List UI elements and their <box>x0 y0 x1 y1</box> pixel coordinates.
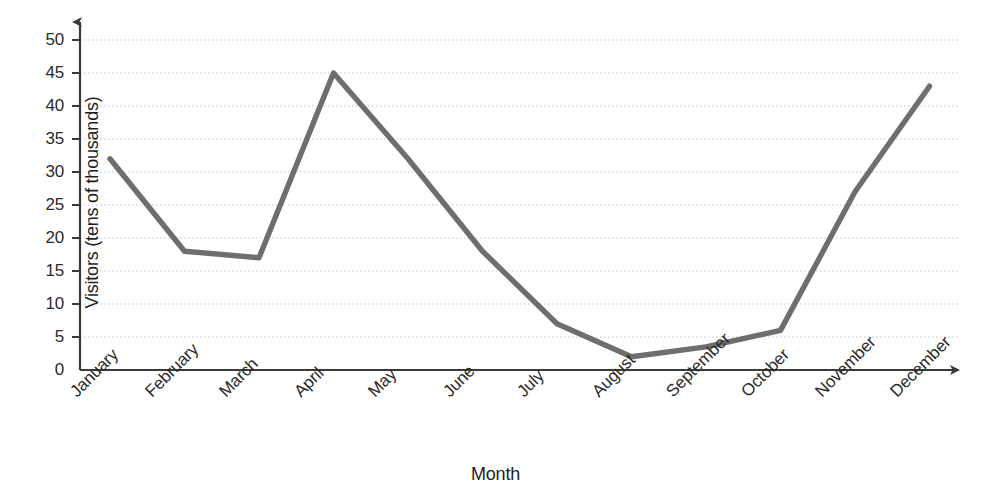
gridlines <box>80 40 958 337</box>
y-axis-tick-label: 25 <box>24 196 64 213</box>
y-axis-ticks <box>72 40 80 337</box>
y-axis-tick-label: 40 <box>24 97 64 114</box>
y-axis-tick-label: 30 <box>24 163 64 180</box>
y-axis-tick-label: 20 <box>24 229 64 246</box>
y-axis-tick-label: 10 <box>24 295 64 312</box>
y-axis-tick-label: 45 <box>24 64 64 81</box>
x-axis-title: Month <box>0 464 991 485</box>
y-axis-tick-label: 0 <box>24 361 64 378</box>
data-series-line <box>110 73 930 357</box>
line-chart-figure: 05101520253035404550 JanuaryFebruaryMarc… <box>0 0 991 497</box>
y-axis-tick-label: 15 <box>24 262 64 279</box>
y-axis-tick-label: 50 <box>24 31 64 48</box>
y-axis-title: Visitors (tens of thousands) <box>82 43 103 363</box>
y-axis-tick-label: 5 <box>24 328 64 345</box>
y-axis-tick-label: 35 <box>24 130 64 147</box>
chart-canvas <box>0 0 991 497</box>
